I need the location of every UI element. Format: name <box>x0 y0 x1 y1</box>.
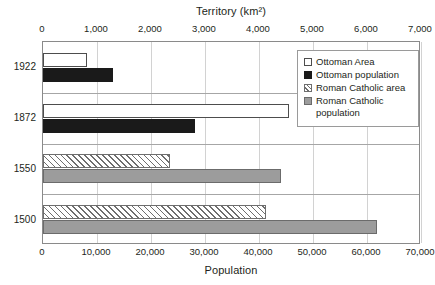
gridline-7 <box>421 42 422 243</box>
bar-ottoman-area-1922 <box>43 53 87 67</box>
top-axis-tick-2: 2,000 <box>138 23 162 34</box>
top-axis-tick-labels: 01,0002,0003,0004,0005,0006,0007,000 <box>42 23 420 37</box>
top-axis-title: Territory (km²) <box>42 5 420 17</box>
category-axis-labels: 1922187215501500 <box>0 41 40 244</box>
chart-legend: Ottoman AreaOttoman populationRoman Cath… <box>297 50 419 127</box>
legend-label: Roman Catholic area <box>316 82 405 94</box>
legend-label: Ottoman population <box>316 69 399 81</box>
legend-swatch-icon-ottoman-area <box>304 58 312 66</box>
bar-roman-catholic-area-1550 <box>43 154 170 168</box>
bottom-axis-tick-7: 70,000 <box>405 246 434 257</box>
legend-label: Ottoman Area <box>316 56 375 68</box>
legend-swatch-icon-ottoman-population <box>304 71 312 79</box>
bar-ottoman-area-1872 <box>43 104 289 118</box>
top-axis-tick-7: 7,000 <box>408 23 432 34</box>
bar-roman-catholic-population-1500 <box>43 220 377 234</box>
legend-label: Roman Catholic population <box>316 95 413 118</box>
legend-item-ottoman-population[interactable]: Ottoman population <box>304 69 413 81</box>
bottom-axis-tick-0: 0 <box>39 246 44 257</box>
top-axis-tick-0: 0 <box>39 23 44 34</box>
bottom-axis-tick-6: 60,000 <box>351 246 380 257</box>
legend-swatch-icon-roman-catholic-population <box>304 97 312 105</box>
top-axis-tick-6: 6,000 <box>354 23 378 34</box>
top-axis-tick-3: 3,000 <box>192 23 216 34</box>
bottom-axis-tick-4: 40,000 <box>243 246 272 257</box>
legend-item-roman-catholic-population[interactable]: Roman Catholic population <box>304 95 413 118</box>
category-label-1550: 1550 <box>14 162 36 173</box>
top-axis-tick-4: 4,000 <box>246 23 270 34</box>
legend-item-ottoman-area[interactable]: Ottoman Area <box>304 56 413 68</box>
bar-ottoman-population-1922 <box>43 68 113 82</box>
legend-swatch-icon-roman-catholic-area <box>304 84 312 92</box>
bottom-axis-tick-2: 20,000 <box>135 246 164 257</box>
top-axis-tick-1: 1,000 <box>84 23 108 34</box>
bar-ottoman-population-1872 <box>43 119 195 133</box>
bottom-axis-title: Population <box>42 264 420 276</box>
bar-roman-catholic-population-1550 <box>43 169 281 183</box>
bottom-axis-tick-1: 10,000 <box>81 246 110 257</box>
top-axis-tick-5: 5,000 <box>300 23 324 34</box>
bottom-axis-tick-3: 30,000 <box>189 246 218 257</box>
bottom-axis-tick-5: 50,000 <box>297 246 326 257</box>
bottom-axis-tick-labels: 010,00020,00030,00040,00050,00060,00070,… <box>42 246 420 260</box>
legend-item-roman-catholic-area[interactable]: Roman Catholic area <box>304 82 413 94</box>
category-label-1500: 1500 <box>14 213 36 224</box>
category-label-1872: 1872 <box>14 112 36 123</box>
bar-roman-catholic-area-1500 <box>43 205 266 219</box>
category-label-1922: 1922 <box>14 61 36 72</box>
